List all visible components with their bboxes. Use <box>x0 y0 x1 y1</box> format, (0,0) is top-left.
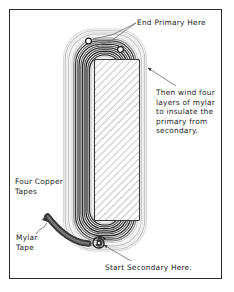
label-four-copper-tapes: Four Copper Tapes <box>15 177 79 196</box>
label-mylar-tape: Mylar Tape <box>16 233 38 252</box>
label-end-primary: End Primary Here <box>137 18 206 28</box>
primary-terminal-left <box>86 38 92 44</box>
primary-terminal-right <box>118 47 124 53</box>
label-mylar-note: Then wind four layers of mylar to insula… <box>156 88 215 136</box>
hatched-core <box>95 60 140 221</box>
label-start-secondary: Start Secondary Here. <box>105 263 192 273</box>
leader-line-mylar-note <box>148 68 176 86</box>
diagram-page: End Primary Here Then wind four layers o… <box>0 0 234 292</box>
